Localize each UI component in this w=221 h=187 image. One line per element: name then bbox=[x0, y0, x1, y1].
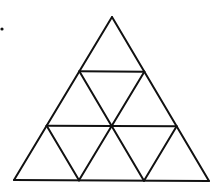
edge-bottom bbox=[14, 180, 209, 181]
grid-diagonal-line bbox=[144, 126, 177, 180]
edge-right bbox=[112, 17, 209, 181]
triangle-diagram bbox=[0, 0, 221, 187]
grid-horizontal-line bbox=[47, 126, 177, 127]
edge-left bbox=[14, 17, 112, 180]
grid-diagonal-line bbox=[47, 126, 79, 181]
triangle-grid-lines bbox=[14, 17, 209, 181]
marker-dot bbox=[0, 27, 3, 30]
